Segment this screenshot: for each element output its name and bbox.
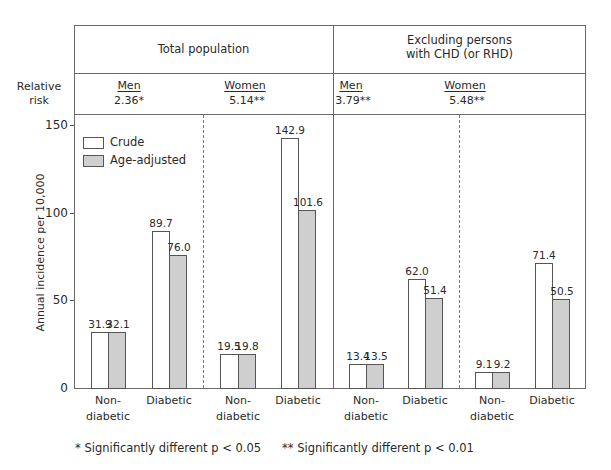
val-excl-men-nondiab-adj: 13.5 [359, 350, 393, 362]
xlabel-nondiab-1b: diabetic [78, 410, 138, 424]
bar-total-men-diab-crude [152, 231, 170, 389]
header-divider [74, 73, 586, 74]
y-ticklabel-150: 150 [38, 118, 68, 132]
bar-excl-men-diab-adj [425, 298, 443, 389]
bar-total-women-diab-adj [298, 210, 316, 389]
val-excl-women-diab-adj: 50.5 [545, 285, 579, 297]
xlabel-diab-3: Diabetic [395, 394, 455, 408]
bar-excl-men-nondiab-crude [349, 364, 367, 389]
val-excl-women-nondiab-adj: 9.2 [485, 358, 519, 370]
y-tick-100 [70, 213, 74, 214]
xlabel-nondiab-4a: Non- [462, 394, 522, 408]
bar-total-women-diab-crude [281, 138, 299, 389]
rr-sex-women-total: Women [210, 79, 280, 92]
sex-divider-right [459, 115, 460, 388]
rr-sex-men-excl: Men [326, 79, 376, 92]
xlabel-nondiab-1a: Non- [78, 394, 138, 408]
xlabel-nondiab-3b: diabetic [336, 410, 396, 424]
xlabel-nondiab-2a: Non- [208, 394, 268, 408]
y-tick-50 [70, 300, 74, 301]
val-excl-men-diab-crude: 62.0 [400, 265, 434, 277]
val-total-men-diab-adj: 76.0 [162, 241, 196, 253]
val-excl-women-diab-crude: 71.4 [527, 249, 561, 261]
xlabel-diab-1: Diabetic [139, 394, 199, 408]
bar-total-men-nondiab-adj [108, 332, 126, 389]
y-axis-label: Annual incidence per 10,000 [34, 153, 47, 353]
rr-sex-women-excl: Women [430, 79, 500, 92]
val-total-women-nondiab-adj: 19.8 [230, 340, 264, 352]
panel-title-excluding-1: Excluding persons [333, 33, 586, 47]
panel-title-excluding-2: with CHD (or RHD) [333, 47, 586, 61]
rr-value-men-excl: 3.79** [328, 94, 378, 107]
bar-total-women-nondiab-crude [220, 354, 239, 389]
xlabel-nondiab-2b: diabetic [208, 410, 268, 424]
rr-value-men-total: 2.36* [104, 94, 154, 107]
bar-excl-women-diab-crude [535, 263, 553, 389]
val-excl-men-diab-adj: 51.4 [418, 284, 452, 296]
legend-adjusted-label: Age-adjusted [110, 154, 186, 167]
rr-value-women-total: 5.14** [212, 94, 282, 107]
rr-divider [74, 114, 586, 115]
xlabel-nondiab-3a: Non- [336, 394, 396, 408]
val-total-women-diab-crude: 142.9 [273, 124, 307, 136]
val-total-women-diab-adj: 101.6 [291, 196, 325, 208]
bar-excl-women-nondiab-adj [492, 372, 510, 389]
val-total-men-nondiab-adj: 32.1 [101, 318, 135, 330]
legend-crude-swatch [83, 137, 104, 149]
xlabel-nondiab-4b: diabetic [462, 410, 522, 424]
xlabel-diab-2: Diabetic [268, 394, 328, 408]
y-ticklabel-0: 0 [38, 381, 68, 395]
footnote-p05: * Significantly different p < 0.05 [75, 442, 261, 455]
bar-total-men-diab-adj [169, 255, 187, 389]
legend-adjusted-swatch [83, 155, 104, 167]
bar-excl-men-nondiab-adj [366, 364, 384, 389]
legend-crude-label: Crude [110, 136, 144, 149]
rr-label-1: Relative [14, 80, 64, 93]
sex-divider-left [203, 115, 204, 388]
bar-excl-women-diab-adj [552, 299, 570, 389]
footnote-p01: ** Significantly different p < 0.01 [282, 442, 474, 455]
rr-value-women-excl: 5.48** [432, 94, 502, 107]
rr-sex-men-total: Men [104, 79, 154, 92]
bar-total-men-nondiab-crude [91, 332, 109, 389]
val-total-men-diab-crude: 89.7 [144, 217, 178, 229]
y-tick-150 [70, 125, 74, 126]
panel-title-total: Total population [74, 42, 333, 56]
rr-label-2: risk [14, 94, 64, 107]
bar-excl-women-nondiab-crude [475, 372, 493, 389]
xlabel-diab-4: Diabetic [522, 394, 582, 408]
bar-total-women-nondiab-adj [238, 354, 256, 389]
